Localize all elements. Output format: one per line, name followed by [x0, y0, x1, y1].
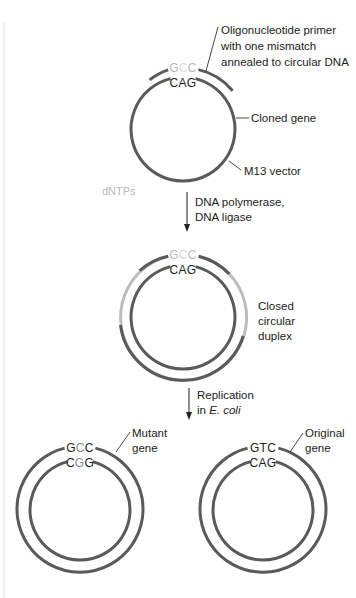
original-callout-line [290, 433, 303, 452]
step-label-replication: Replication in E. coli [197, 389, 257, 416]
site-directed-mutagenesis-diagram: GCC CAG Oligonucleotide primer with one … [0, 0, 356, 598]
original-top-sequence: GTC [250, 441, 276, 455]
dntps-label: dNTPs [102, 185, 136, 197]
template-sequence: CAG [170, 263, 197, 277]
primer-strand-left [150, 70, 169, 80]
vector-label: M13 vector [244, 165, 301, 177]
step-arrow-replication: Replication in E. coli [186, 388, 257, 420]
mutant-inner-strand [30, 462, 130, 560]
primer-sequence: GCC [169, 61, 197, 75]
panel-primer-annealing: GCC CAG Oligonucleotide primer with one … [102, 24, 349, 197]
original-inner-strand [213, 462, 313, 560]
circular-dna-strand [131, 79, 235, 181]
panel-original: GTC CAG Original gene [200, 427, 348, 572]
step-label-polymerase-ligase: DNA polymerase, DNA ligase [195, 196, 288, 223]
template-strand [131, 267, 235, 369]
original-bottom-sequence: CAG [250, 456, 277, 470]
primer-callout: Oligonucleotide primer with one mismatch… [220, 24, 349, 68]
panel-closed-circular-duplex: GCC CAG Closed circular duplex [121, 248, 299, 380]
vector-callout-line [229, 161, 241, 170]
new-strand-primer-right [199, 256, 230, 274]
cloned-gene-label: Cloned gene [251, 112, 316, 124]
down-arrow-icon [184, 224, 190, 232]
panel-mutant: GCC CGG Mutant gene [17, 427, 170, 572]
mutant-top-sequence: GCC [66, 441, 94, 455]
step-arrow-polymerase-ligase: DNA polymerase, DNA ligase [184, 192, 288, 232]
duplex-label: Closed circular duplex [258, 300, 298, 342]
mutant-gene-label: Mutant gene [132, 427, 170, 454]
mutant-callout-line [116, 432, 130, 452]
original-gene-label: Original gene [305, 427, 348, 454]
template-sequence: CAG [170, 76, 197, 90]
new-strand-sequence: GCC [169, 248, 197, 262]
mutant-bottom-sequence: CGG [66, 456, 94, 470]
new-strand-dark-bottom [121, 325, 244, 380]
down-arrow-icon [186, 412, 192, 420]
primer-callout-line [206, 27, 218, 71]
